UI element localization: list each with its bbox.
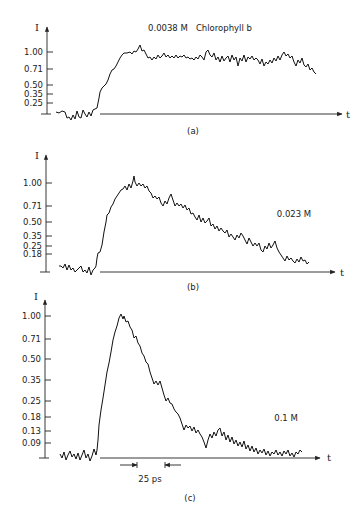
y-tick-label: 0.13	[22, 426, 41, 436]
panel-a: 0.0038 M Chlorophyll b I t (a) 1.000.710…	[24, 22, 350, 136]
y-tick-label: 0.50	[23, 217, 42, 227]
panel-b-label: (b)	[187, 282, 199, 292]
panel-c-label: (c)	[184, 493, 195, 503]
panel-b-concentration: 0.023 M	[277, 209, 311, 219]
panel-a-title: 0.0038 M Chlorophyll b	[148, 23, 252, 33]
y-axis-label: I	[34, 291, 38, 302]
y-tick-label: 0.71	[23, 201, 42, 211]
panel-c-concentration: 0.1 M	[274, 413, 298, 423]
panel-c: I t 0.1 M 25 ps (c) 1.000.710.500.350.25…	[22, 291, 331, 503]
y-tick-label: 0.09	[22, 438, 41, 448]
decay-curve	[56, 45, 316, 120]
y-tick-label: 0.35	[22, 375, 41, 385]
figure-canvas: 0.0038 M Chlorophyll b I t (a) 1.000.710…	[0, 0, 364, 505]
y-tick-label: 0.25	[22, 396, 41, 406]
y-tick-label: 0.35	[23, 231, 42, 241]
y-tick-label: 0.50	[22, 354, 41, 364]
y-tick-label: 1.00	[24, 47, 43, 57]
y-axis-label: I	[35, 22, 39, 33]
y-tick-label: 0.18	[22, 412, 41, 422]
scale-bar-label: 25 ps	[138, 474, 162, 484]
panel-b: I t 0.023 M (b) 1.000.710.500.350.250.18	[23, 150, 344, 292]
panel-a-label: (a)	[187, 126, 199, 136]
y-tick-label: 1.00	[23, 178, 42, 188]
decay-curve	[60, 314, 302, 461]
decay-curve	[59, 176, 309, 275]
y-tick-label: 0.71	[24, 64, 43, 74]
x-axis-label: t	[327, 452, 331, 463]
x-axis-label: t	[340, 267, 344, 278]
x-axis-label: t	[346, 109, 350, 120]
y-tick-label: 0.71	[22, 334, 41, 344]
y-tick-label: 0.18	[23, 249, 42, 259]
y-tick-label: 1.00	[22, 311, 41, 321]
y-axis-label: I	[35, 150, 39, 161]
y-tick-label: 0.25	[24, 98, 43, 108]
